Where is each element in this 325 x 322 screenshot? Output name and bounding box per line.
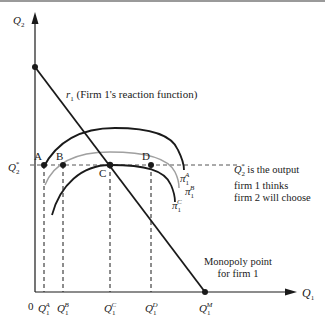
monopoly-point <box>202 289 208 295</box>
reaction-intercept-point <box>32 64 38 70</box>
x-tick-qm: Q1M <box>199 299 212 319</box>
point-a-label: A <box>34 150 42 162</box>
point-d <box>148 162 154 168</box>
monopoly-note: Monopoly point for firm 1 <box>193 256 283 280</box>
x-axis-arrow <box>285 289 297 296</box>
point-d-label: D <box>142 150 150 162</box>
monopoly-note-line1: Monopoly point <box>193 256 283 268</box>
isoprofit-label-b: π1B <box>185 182 194 202</box>
isoprofit-curve-c <box>52 165 175 215</box>
q2-star-note-line3: firm 2 will choose <box>234 192 311 204</box>
isoprofit-label-c: π1C <box>172 196 182 216</box>
point-c <box>107 162 113 168</box>
point-c-label: C <box>99 167 106 179</box>
x-tick-qa: Q1A <box>38 299 50 319</box>
y-axis-arrow <box>32 12 39 24</box>
point-a <box>41 162 47 168</box>
q2-star-axis-label: Q2* <box>8 158 19 178</box>
y-axis-label: Q2 <box>13 14 24 31</box>
reaction-function-label: r1 (Firm 1's reaction function) <box>66 88 197 105</box>
x-tick-qd: Q1D <box>145 299 158 319</box>
x-axis-label: Q1 <box>302 287 314 304</box>
x-tick-qc: Q1C <box>104 299 116 319</box>
x-tick-qb: Q1B <box>57 299 69 319</box>
monopoly-note-line2: for firm 1 <box>193 268 283 280</box>
q2-star-note-line1: Q2* is the output <box>234 160 311 180</box>
point-b-label: B <box>56 150 63 162</box>
q2-star-note: Q2* is the output firm 1 thinks firm 2 w… <box>234 160 311 204</box>
point-b <box>60 162 66 168</box>
origin-label: 0 <box>28 300 34 312</box>
q2-star-note-line2: firm 1 thinks <box>234 180 311 192</box>
